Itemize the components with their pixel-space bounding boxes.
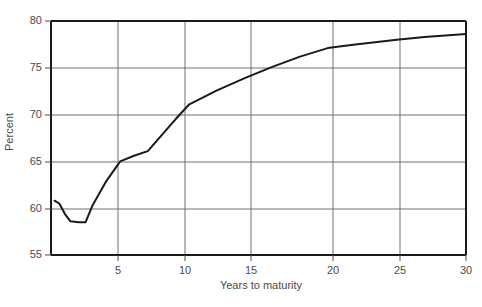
y-tick-label-55: 55 bbox=[18, 248, 42, 260]
x-axis-title: Years to maturity bbox=[181, 279, 341, 291]
plot-frame bbox=[51, 21, 466, 255]
chart-plot-area bbox=[0, 0, 482, 307]
y-tick-label-70: 70 bbox=[18, 108, 42, 120]
grid-lines bbox=[51, 21, 466, 255]
y-axis-title: Percent bbox=[3, 102, 15, 162]
x-tick-label-25: 25 bbox=[385, 264, 415, 276]
y-tick-label-65: 65 bbox=[18, 155, 42, 167]
x-tick-label-30: 30 bbox=[451, 264, 481, 276]
x-tick-label-15: 15 bbox=[236, 264, 266, 276]
data-series-line bbox=[55, 34, 467, 222]
x-tick-label-10: 10 bbox=[170, 264, 200, 276]
y-tick-label-80: 80 bbox=[18, 14, 42, 26]
y-tick-label-60: 60 bbox=[18, 202, 42, 214]
x-tick-label-20: 20 bbox=[318, 264, 348, 276]
x-tick-label-5: 5 bbox=[103, 264, 133, 276]
y-tick-label-75: 75 bbox=[18, 61, 42, 73]
chart-container: 80 75 70 65 60 55 5 10 15 20 25 30 Perce… bbox=[0, 0, 482, 307]
